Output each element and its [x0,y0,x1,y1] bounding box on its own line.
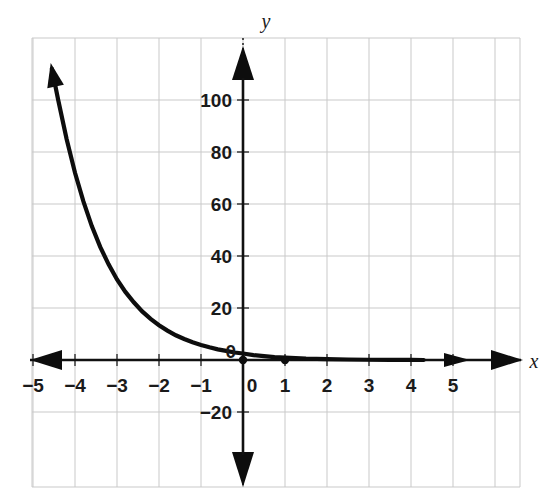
y-tick-label: 40 [211,246,232,267]
x-tick-label: −3 [106,375,128,396]
x-tick-label: 1 [280,375,291,396]
y-axis-label: y [260,10,271,33]
x-tick-label: 5 [448,375,459,396]
y-tick-label: 20 [211,298,232,319]
x-tick-label: −4 [64,375,86,396]
x-tick-label: −1 [190,375,212,396]
x-tick-label: 3 [364,375,375,396]
y-tick-label: −20 [200,402,232,423]
origin-point [239,356,247,364]
chart-background [0,0,551,495]
x-axis-label: x [529,350,539,372]
y-tick-label-zero: 0 [225,341,236,362]
x-tick-label: 2 [322,375,333,396]
y-tick-label: 80 [211,142,232,163]
point-at-x-1 [281,356,289,364]
exponential-decay-graph: −5−4−3−2−1012345 −20204060801000 x y [0,0,551,495]
y-tick-label: 60 [211,194,232,215]
x-tick-label: −2 [148,375,170,396]
x-tick-label: 4 [406,375,417,396]
x-tick-label: 0 [247,375,258,396]
y-tick-label: 100 [200,90,232,111]
x-tick-label: −5 [22,375,44,396]
chart-canvas: −5−4−3−2−1012345 −20204060801000 x y [0,0,551,495]
